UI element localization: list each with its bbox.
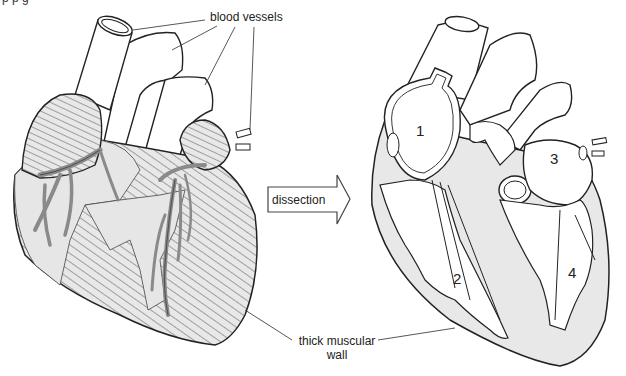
label-dissection: dissection	[272, 193, 325, 207]
cropped-caption-text: p p g	[2, 0, 29, 5]
label-blood-vessels: blood vessels	[210, 10, 283, 24]
diagram-canvas	[0, 0, 626, 376]
dissected-heart	[372, 14, 609, 366]
chamber-number-3: 3	[550, 150, 558, 167]
external-heart	[14, 12, 257, 345]
label-thick-muscular-wall: thick muscular wall	[297, 334, 377, 362]
pulmonary-vein-stub-2	[236, 144, 250, 150]
chamber-number-1: 1	[416, 122, 424, 139]
pulmonary-vein-stub-1	[236, 128, 251, 137]
label-wall-line-1: thick muscular	[297, 334, 377, 348]
right-atrium	[22, 94, 102, 178]
label-wall-line-2: wall	[297, 348, 377, 362]
heart-diagram: p p g	[0, 0, 626, 376]
chamber-number-4: 4	[568, 264, 576, 281]
atrial-opening	[387, 133, 399, 157]
chamber-number-2: 2	[453, 270, 461, 287]
